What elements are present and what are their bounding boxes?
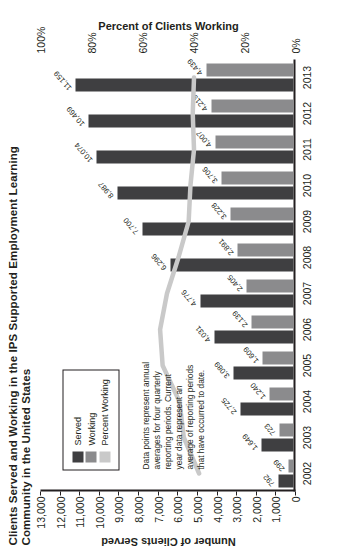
y-tick-label: 12,000 <box>54 496 66 528</box>
y-tick-label: 3,000 <box>230 496 242 522</box>
bar-group: 8,9873,706 <box>38 167 293 203</box>
bar-served: 3,089 <box>233 366 294 379</box>
legend-label-percent-working: Percent Working <box>99 379 109 445</box>
bar-served: 4,031 <box>214 330 293 343</box>
chart-screenshot: Clients Served and Working in the IPS Su… <box>0 0 344 553</box>
bar-value-label-working: 299 <box>271 457 286 472</box>
x-tick-label: 2008 <box>300 245 312 268</box>
bar-value-label-served: 3,089 <box>212 359 231 379</box>
bar-served: 6,296 <box>170 258 293 271</box>
bar-value-label-served: 7,700 <box>121 215 140 235</box>
secondary-y-tick-label: 20% <box>238 32 250 53</box>
bar-group: 10,4694,219 <box>38 95 293 131</box>
y-tick-label: 0 <box>289 496 301 502</box>
y-tick-label: 5,000 <box>191 496 203 522</box>
x-tick-label: 2004 <box>300 389 312 412</box>
bar-served: 4,776 <box>200 294 294 307</box>
bar-group: 6,2962,891 <box>38 239 293 275</box>
bar-served: 11,159 <box>75 78 294 91</box>
bar-served: 1,649 <box>261 438 293 451</box>
y-tick-mark <box>255 491 256 495</box>
bar-group: 4,7762,405 <box>38 275 293 311</box>
bar-value-label-served: 792 <box>261 472 276 487</box>
bar-value-label-served: 10,469 <box>64 104 86 128</box>
bar-working: 2,139 <box>251 315 293 328</box>
bar-value-label-served: 10,074 <box>72 140 94 164</box>
bar-value-label-served: 6,296 <box>149 251 168 271</box>
y-tick-label: 6,000 <box>171 496 183 522</box>
bar-served: 8,987 <box>117 186 293 199</box>
y-tick-label: 9,000 <box>112 496 124 522</box>
bar-working: 299 <box>288 459 294 472</box>
x-tick-label: 2005 <box>300 353 312 376</box>
y-tick-label: 7,000 <box>152 496 164 522</box>
bar-value-label-served: 2,725 <box>219 395 238 415</box>
y-tick-label: 1,000 <box>269 496 281 522</box>
y-tick-mark <box>157 491 158 495</box>
legend-item-percent-working: Percent Working <box>99 379 110 462</box>
y-tick-label: 8,000 <box>132 496 144 522</box>
y-tick-mark <box>138 491 139 495</box>
bar-value-label-served: 4,031 <box>193 323 212 343</box>
legend-swatch-percent-working-icon <box>99 451 110 462</box>
y-tick-mark <box>295 491 296 495</box>
bar-working: 1,240 <box>269 387 293 400</box>
chart-annotation: Data points represent annual averages fo… <box>140 357 207 469</box>
bar-working: 1,609 <box>262 351 294 364</box>
y-tick-mark <box>275 491 276 495</box>
bar-value-label-served: 11,159 <box>51 69 72 92</box>
legend-swatch-served-icon <box>72 451 83 462</box>
y-tick-mark <box>196 491 197 495</box>
bar-working: 2,891 <box>237 243 294 256</box>
secondary-y-tick-label: 100% <box>34 26 46 53</box>
x-tick-label: 2011 <box>300 138 312 161</box>
x-tick-label: 2006 <box>300 317 312 340</box>
legend-label-served: Served <box>72 416 82 445</box>
bar-working: 4,219 <box>211 99 294 112</box>
y-tick-mark <box>177 491 178 495</box>
bar-working: 2,405 <box>246 279 293 292</box>
secondary-y-tick-label: 40% <box>187 32 199 53</box>
legend-item-served: Served <box>72 379 83 462</box>
bar-working: 4,439 <box>206 63 293 76</box>
y-axis-title: Number of Clients Served <box>40 535 295 549</box>
bar-group: 7,7003,228 <box>38 203 293 239</box>
x-tick-label: 2013 <box>300 65 312 88</box>
legend-swatch-working-icon <box>85 451 96 462</box>
bar-served: 792 <box>278 474 294 487</box>
bar-working: 3,228 <box>230 207 293 220</box>
bar-group: 4,0312,139 <box>38 311 293 347</box>
bar-value-label-working: 723 <box>262 421 277 436</box>
rotated-chart-canvas: Clients Served and Working in the IPS Su… <box>0 0 344 553</box>
y-tick-label: 4,000 <box>211 496 223 522</box>
y-tick-label: 11,000 <box>73 496 85 527</box>
x-tick-label: 2010 <box>300 173 312 196</box>
chart-title: Clients Served and Working in the IPS Su… <box>6 85 32 545</box>
y-tick-mark <box>216 491 217 495</box>
y-tick-mark <box>236 491 237 495</box>
x-tick-label: 2002 <box>300 461 312 484</box>
bar-group: 10,0744,007 <box>38 131 293 167</box>
bar-served: 7,700 <box>142 222 293 235</box>
bar-working: 4,007 <box>215 135 294 148</box>
chart-legend: Served Working Percent Working <box>62 369 119 470</box>
bar-working: 723 <box>279 423 293 436</box>
y-tick-mark <box>79 491 80 495</box>
legend-label-working: Working <box>86 412 96 445</box>
bar-served: 2,725 <box>240 402 293 415</box>
y-tick-mark <box>40 491 41 495</box>
x-tick-label: 2012 <box>300 101 312 124</box>
bar-served: 10,074 <box>96 150 294 163</box>
y-tick-mark <box>98 491 99 495</box>
x-tick-label: 2007 <box>300 281 312 304</box>
secondary-y-tick-label: 0% <box>289 38 301 53</box>
bar-value-label-served: 8,987 <box>96 179 115 199</box>
legend-item-working: Working <box>85 379 96 462</box>
secondary-y-tick-label: 80% <box>85 32 97 53</box>
secondary-y-tick-label: 60% <box>136 32 148 53</box>
bar-group: 11,1594,439 <box>38 59 293 95</box>
y-tick-mark <box>59 491 60 495</box>
secondary-y-axis-title-text: Percent of Clients Working <box>97 20 237 32</box>
x-tick-label: 2009 <box>300 209 312 232</box>
y-tick-label: 2,000 <box>250 496 262 522</box>
